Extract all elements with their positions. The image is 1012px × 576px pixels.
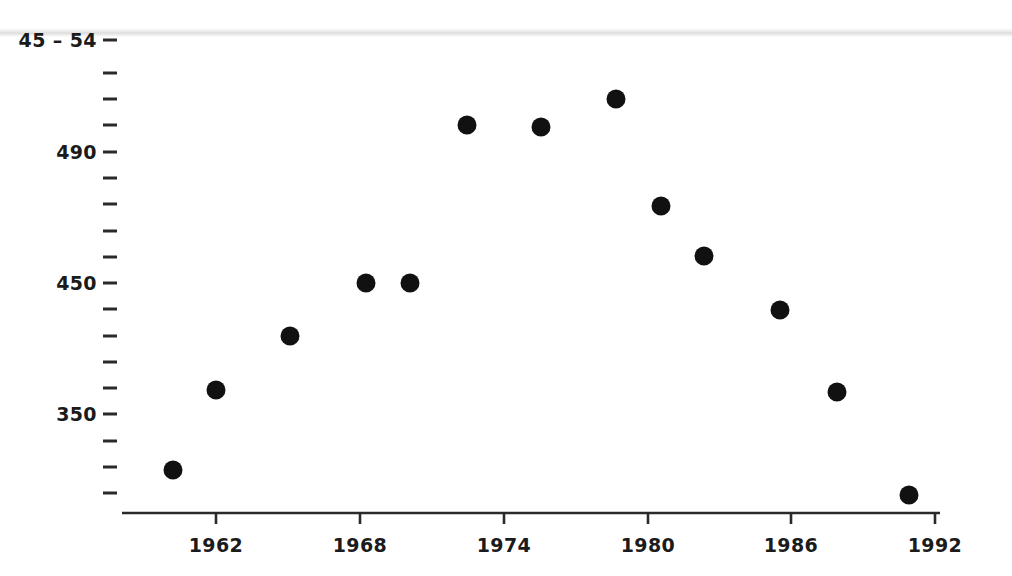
y-tick-label: 490 [56,143,97,162]
y-tick-label: 350 [56,405,97,424]
data-point[interactable] [207,381,226,400]
data-point[interactable] [695,247,714,266]
data-point[interactable] [652,197,671,216]
x-axis-tick-marks [216,513,935,524]
x-tick-label: 1974 [459,536,549,555]
data-point-markers [164,90,919,505]
data-point[interactable] [401,274,420,293]
data-point[interactable] [357,274,376,293]
data-point[interactable] [532,118,551,137]
data-point[interactable] [607,90,626,109]
x-tick-label: 1992 [890,536,980,555]
scatter-chart-figure: 45 – 54490450350 19621968197419801986199… [0,0,1012,576]
x-tick-label: 1986 [746,536,836,555]
data-point[interactable] [281,327,300,346]
data-point[interactable] [900,486,919,505]
data-point[interactable] [828,383,847,402]
y-tick-label: 45 – 54 [19,31,97,50]
x-tick-label: 1968 [315,536,405,555]
y-axis-tick-marks [103,40,117,493]
x-tick-label: 1980 [603,536,693,555]
y-tick-label: 450 [56,274,97,293]
data-point[interactable] [458,116,477,135]
plot-canvas [0,0,1012,576]
data-point[interactable] [771,301,790,320]
data-point[interactable] [164,461,183,480]
x-tick-label: 1962 [171,536,261,555]
